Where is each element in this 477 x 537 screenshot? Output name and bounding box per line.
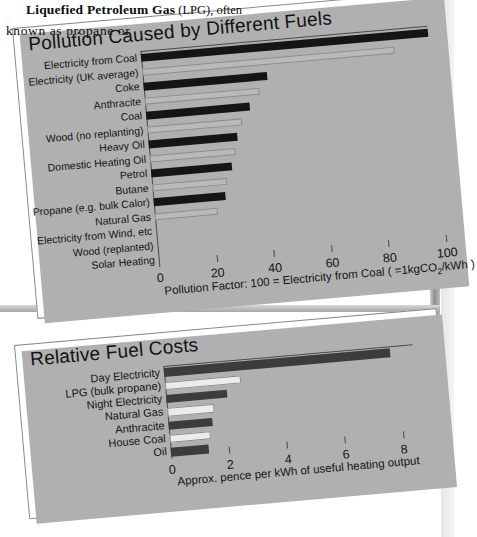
bar bbox=[166, 390, 228, 404]
body-text-line-2: known as propane or bbox=[6, 21, 340, 42]
bar-category-label: Butane bbox=[115, 182, 149, 195]
body-text-bold-term: Liquefied Petroleum Gas bbox=[26, 2, 175, 17]
chart-panel-costs: Relative Fuel Costs Day ElectricityLPG (… bbox=[14, 308, 452, 519]
body-text-line-1-rest: (LPG), often bbox=[175, 3, 242, 17]
x-axis-tick-label: 60 bbox=[325, 255, 340, 270]
bar bbox=[153, 192, 225, 206]
bar bbox=[145, 88, 260, 106]
bar bbox=[152, 178, 227, 192]
bar bbox=[169, 431, 210, 443]
body-text-line-1: Liquefied Petroleum Gas (LPG), often bbox=[26, 0, 340, 21]
bar bbox=[148, 133, 238, 148]
bar bbox=[155, 207, 219, 220]
bar-rows-pollution: Electricity from CoalElectricity (UK ave… bbox=[140, 26, 446, 267]
x-axis-tick-label: 0 bbox=[168, 462, 176, 477]
bar bbox=[146, 103, 250, 120]
x-axis-tick-label: 0 bbox=[156, 271, 164, 286]
bar-category-label: Oil bbox=[153, 446, 167, 458]
plot-area-pollution: Electricity from CoalElectricity (UK ave… bbox=[140, 26, 446, 267]
x-axis-tick-label: 20 bbox=[210, 265, 225, 280]
bar-category-label: Coal bbox=[120, 110, 142, 122]
bar bbox=[151, 163, 232, 177]
bar bbox=[150, 148, 237, 163]
x-axis-tick-label: 80 bbox=[382, 250, 397, 265]
bar bbox=[168, 418, 212, 430]
chart-panel-pollution: Pollution Caused by Different Fuels Elec… bbox=[12, 0, 464, 319]
bar bbox=[165, 375, 241, 390]
bar-category-label: Coke bbox=[115, 82, 140, 95]
x-axis-caption-post: /kWh ) bbox=[441, 258, 475, 273]
bar bbox=[171, 445, 209, 457]
page-body-text: Liquefied Petroleum Gas (LPG), often kno… bbox=[0, 0, 340, 42]
bar-category-label: Petrol bbox=[119, 168, 147, 181]
bar bbox=[167, 404, 214, 417]
bar bbox=[147, 118, 242, 134]
x-axis-tick-label: 40 bbox=[268, 260, 283, 275]
